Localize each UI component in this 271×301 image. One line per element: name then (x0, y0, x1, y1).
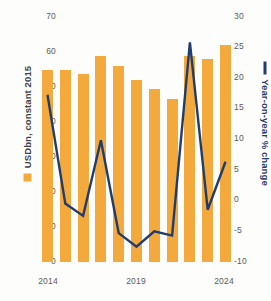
plot-area (39, 16, 234, 262)
line-path (48, 42, 226, 246)
right-axis-tick-neg5: -5 (234, 226, 268, 235)
x-axis-tick-2024: 2024 (214, 276, 234, 286)
x-axis-tick-2019: 2019 (126, 276, 146, 286)
right-axis-tick-30: 30 (234, 12, 268, 21)
left-axis-title: USDbn, constant 2015 (22, 49, 33, 199)
right-axis-title: Year-on-year % change (260, 49, 271, 199)
left-axis-title-text: USDbn, constant 2015 (22, 66, 33, 168)
line-series (39, 16, 234, 262)
right-axis-title-text: Year-on-year % change (260, 79, 271, 186)
chart-container: 70 60 50 40 30 20 10 0 30 25 20 15 10 5 … (0, 0, 270, 301)
x-axis-tick-2014: 2014 (38, 276, 58, 286)
legend-swatch-bar-icon (23, 173, 31, 181)
right-axis-tick-neg10: -10 (234, 257, 268, 266)
legend-swatch-line-icon (264, 61, 267, 74)
